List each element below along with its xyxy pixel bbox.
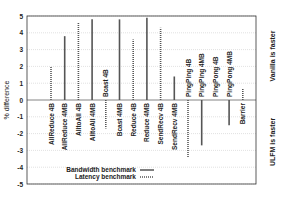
category-label: PingPing 4MB (198, 53, 206, 97)
category-label: AllReduce 4B (48, 103, 55, 145)
y-tick-label: -2 (17, 130, 23, 137)
legend-label-latency: Latency benchmark (75, 173, 136, 181)
annotation-ulfm-faster: ULFM is faster (269, 118, 276, 167)
y-tick-label: -4 (17, 164, 23, 171)
y-tick-label: 4 (19, 29, 23, 36)
category-label: Reduce 4B (130, 103, 137, 137)
category-label: Bcast 4MB (116, 103, 123, 137)
y-tick-label: -5 (17, 181, 23, 188)
category-label: Reduce 4MB (143, 103, 150, 142)
category-label: AllReduce 4MB (61, 103, 68, 151)
category-label: SendRecv 4B (157, 103, 164, 145)
category-label: PingPing 4B (185, 58, 193, 97)
y-tick-label: -3 (17, 147, 23, 154)
category-label: AlltoAll 4MB (89, 103, 96, 142)
y-tick-label: 2 (19, 63, 23, 70)
y-axis-ticks: 543210-1-2-3-4-5 (17, 13, 23, 188)
bar-chart: 543210-1-2-3-4-5 AllReduce 4BAllReduce 4… (0, 0, 284, 200)
y-tick-label: 3 (19, 46, 23, 53)
category-label: PingPong 4B (212, 56, 220, 97)
y-tick-label: -1 (17, 113, 23, 120)
category-label: Bcast 4B (102, 69, 109, 97)
legend-label-bandwidth: Bandwidth benchmark (66, 166, 136, 173)
category-label: Barrier (239, 103, 246, 125)
y-tick-label: 0 (19, 97, 23, 104)
category-label: AlltoAll 4B (75, 103, 82, 136)
category-label: SendRecv 4MB (171, 103, 178, 150)
legend: Bandwidth benchmark Latency benchmark (66, 166, 154, 181)
y-tick-label: 1 (19, 80, 23, 87)
category-label: PingPong 4MB (226, 51, 234, 97)
annotation-vanilla-faster: Vanilla is faster (269, 30, 276, 81)
y-axis-label: % difference (3, 81, 10, 120)
y-tick-label: 5 (19, 13, 23, 20)
grid-lines (27, 16, 256, 184)
